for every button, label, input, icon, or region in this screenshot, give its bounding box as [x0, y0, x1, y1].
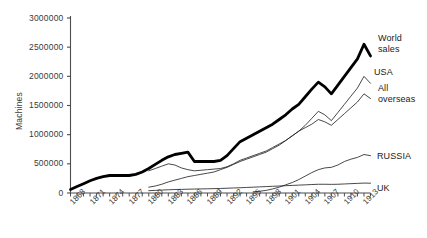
axes [67, 16, 371, 197]
data-series [71, 44, 371, 192]
chart-container: Machines 3000000250000020000001500000100… [0, 0, 427, 238]
series-line-all-overseas [149, 94, 371, 187]
series-line-usa [149, 76, 371, 171]
plot-area [0, 0, 427, 238]
series-line-uk [149, 183, 371, 191]
